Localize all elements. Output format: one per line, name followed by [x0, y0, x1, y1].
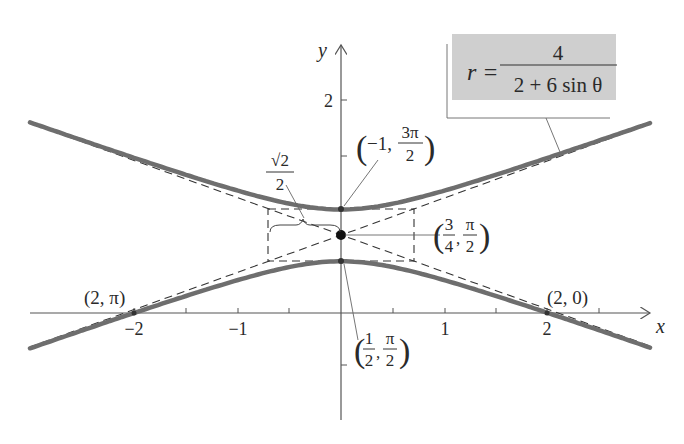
svg-text:√2: √2 [271, 151, 289, 170]
svg-text:2: 2 [386, 351, 395, 370]
x-axis-label: x [655, 315, 665, 337]
svg-text:r =: r = [467, 59, 499, 85]
svg-text:): ) [424, 129, 435, 167]
svg-text:4: 4 [445, 237, 454, 256]
svg-text:1: 1 [365, 329, 374, 348]
svg-text:π: π [386, 329, 395, 348]
svg-text:2 + 6 sin θ: 2 + 6 sin θ [514, 73, 602, 97]
svg-text:3π: 3π [401, 123, 419, 142]
svg-text:−2: −2 [124, 319, 143, 339]
svg-text:2: 2 [543, 319, 552, 339]
svg-text:(: ( [354, 332, 365, 370]
svg-text:2: 2 [365, 351, 374, 370]
upper-vertex [338, 206, 344, 212]
y-axis-label: y [316, 39, 327, 62]
svg-text:(: ( [356, 129, 367, 167]
svg-text:(: ( [433, 217, 444, 255]
svg-text:,: , [456, 229, 460, 248]
label-lower-vertex: ( 1 2 , π 2 ) [354, 329, 410, 370]
svg-text:3: 3 [445, 215, 454, 234]
svg-text:): ) [399, 332, 410, 370]
y-tick-2: 2 [324, 91, 333, 111]
label-2-0: (2, 0) [547, 287, 588, 309]
label-2-pi: (2, π) [84, 287, 125, 309]
label-upper-vertex: ( −1, 3π 2 ) [356, 123, 435, 167]
center-point [336, 230, 346, 240]
svg-text:2: 2 [406, 146, 415, 165]
svg-text:1: 1 [441, 319, 450, 339]
svg-text:−1: −1 [228, 319, 247, 339]
svg-text:π: π [466, 215, 475, 234]
lower-vertex [338, 258, 344, 264]
label-center: ( 3 4 , π 2 ) [433, 215, 490, 256]
svg-text:): ) [479, 217, 490, 255]
svg-text:2: 2 [276, 175, 285, 194]
label-conjugate-half-axis: √2 2 [266, 151, 294, 194]
equation-box: r = 4 2 + 6 sin θ [452, 34, 617, 100]
brace-icon [270, 219, 340, 232]
svg-text:2: 2 [466, 237, 475, 256]
svg-text:4: 4 [553, 41, 564, 65]
svg-text:,: , [376, 343, 380, 362]
svg-text:−1,: −1, [367, 133, 392, 154]
hyperbola-diagram: r = 4 2 + 6 sin θ y x 2 −2 −1 1 2 (2, π)… [0, 0, 684, 444]
